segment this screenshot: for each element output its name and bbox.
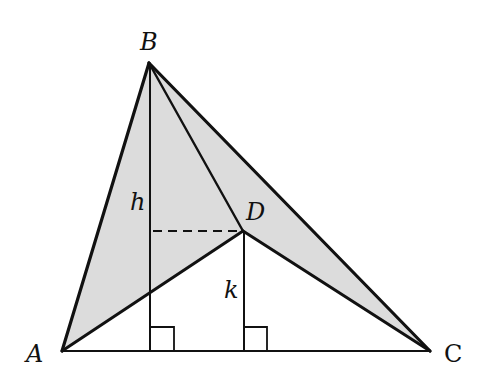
right-angle-mark-k xyxy=(244,327,267,351)
label-B: B xyxy=(139,28,158,56)
label-k: k xyxy=(224,276,239,304)
label-D: D xyxy=(245,198,265,226)
label-C: C xyxy=(444,340,462,368)
geometry-diagram: B A C D h k xyxy=(0,0,480,389)
label-A: A xyxy=(24,340,43,368)
right-angle-mark-h xyxy=(150,327,174,351)
label-h: h xyxy=(130,188,145,216)
segment-DC xyxy=(243,231,430,351)
